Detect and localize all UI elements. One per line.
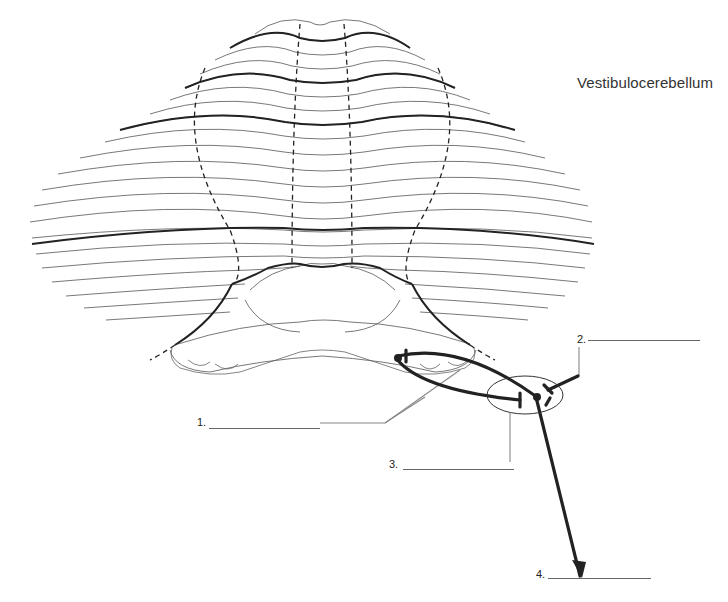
label-3-blank[interactable] xyxy=(403,469,514,470)
cerebellum-thick-fissures xyxy=(32,33,594,345)
vestibular-nucleus-neuron xyxy=(533,393,541,401)
vestibular-pathway xyxy=(396,350,580,576)
vestibular-nucleus-ellipse xyxy=(487,376,563,414)
label-3-number: 3. xyxy=(389,458,398,470)
label-4-blank[interactable] xyxy=(548,578,651,579)
cerebellum-dashed-boundaries xyxy=(150,24,495,360)
label-1-number: 1. xyxy=(197,416,206,428)
cerebellum-folia xyxy=(30,20,592,372)
leader-lines xyxy=(320,347,579,462)
diagram-title: Vestibulocerebellum xyxy=(577,74,713,91)
purkinje-cell-body xyxy=(394,354,402,362)
label-2-number: 2. xyxy=(577,333,586,345)
label-1-blank[interactable] xyxy=(209,428,320,429)
label-4-number: 4. xyxy=(536,568,545,580)
label-2-blank[interactable] xyxy=(588,340,700,341)
